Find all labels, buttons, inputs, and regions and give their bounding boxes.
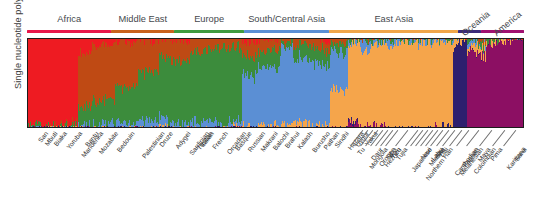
label-leader-line	[504, 130, 517, 146]
region-bar-east-asia	[329, 30, 458, 33]
label-leader-line	[467, 130, 480, 146]
label-leader-line	[492, 130, 505, 146]
population-labels: SanMbutiBiakaYorubaMandenkaBantuMozabite…	[27, 129, 524, 201]
population-label: Surui	[513, 146, 528, 162]
ancestry-segment	[522, 40, 523, 128]
region-bar-europe	[174, 30, 244, 33]
region-label-oceania: Oceania	[459, 9, 491, 38]
label-leader-line	[442, 130, 455, 146]
admixture-plot	[27, 38, 524, 128]
region-label-east-asia: East Asia	[334, 14, 454, 24]
region-label-south-central-asia: South/Central Asia	[227, 14, 347, 24]
individual-bar	[522, 39, 523, 127]
region-bar-south-central-asia	[244, 30, 329, 33]
population-label: Adygei	[174, 130, 192, 150]
region-bar-middle-east	[111, 30, 174, 33]
region-bar-africa	[27, 30, 111, 33]
label-leader-line	[480, 130, 493, 146]
region-header: AfricaMiddle EastEuropeSouth/Central Asi…	[27, 14, 524, 36]
region-label-america: America	[492, 9, 524, 38]
structure-admixture-figure: Single nucleotide polymorphisms AfricaMi…	[0, 0, 550, 214]
